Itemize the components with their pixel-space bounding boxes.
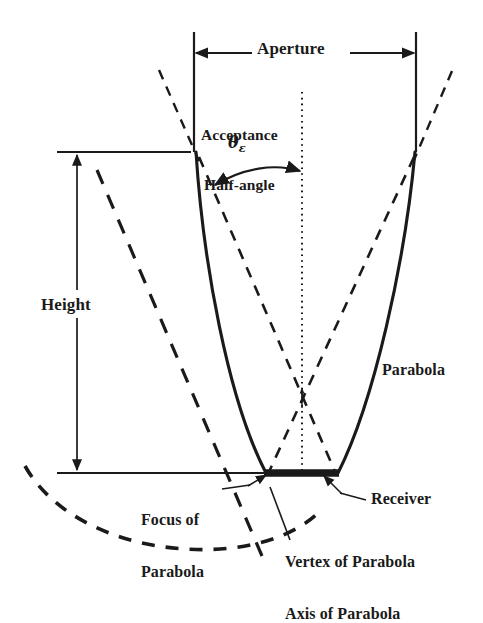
height-label: Height — [41, 296, 91, 314]
epsilon-subscript-glyph: ε — [239, 141, 246, 155]
focus-leader-line — [222, 485, 250, 489]
vertex-axis-label: Vertex of Parabola Axis of Parabola — [285, 519, 415, 623]
focus-label-line2: Parabola — [141, 563, 204, 580]
focus-label-line1: Focus of — [141, 511, 204, 528]
parabola-label: Parabola — [382, 361, 445, 378]
acceptance-half-angle-label: Acceptance Half-angle — [201, 94, 278, 227]
theta-epsilon-symbol: θε — [228, 134, 246, 154]
focus-leader-arrow — [248, 475, 266, 486]
theta-glyph: θ — [228, 133, 239, 152]
receiver-label: Receiver — [371, 490, 431, 507]
parabola-right-branch — [338, 152, 415, 473]
focus-of-parabola-label: Focus of Parabola — [141, 477, 204, 614]
acceptance-label-line2: Half-angle — [201, 177, 278, 194]
vertex-label-line2: Axis of Parabola — [285, 605, 415, 622]
aperture-label: Aperture — [257, 40, 325, 58]
receiver-leader-line — [340, 493, 366, 500]
vertex-label-line1: Vertex of Parabola — [285, 553, 415, 570]
dashed-acceptance-right-edge — [268, 157, 414, 474]
receiver-leader-arrow — [324, 476, 342, 494]
dashed-ray-upper-right — [414, 71, 452, 160]
